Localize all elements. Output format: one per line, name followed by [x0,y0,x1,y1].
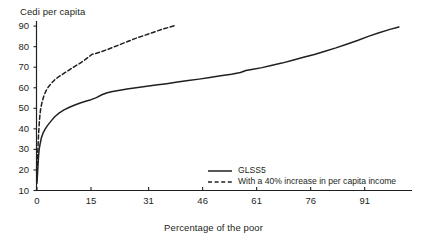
y-tick-label-40: 40 [7,123,29,134]
x-tick-label-46: 46 [188,195,218,206]
y-tick-label-60: 60 [7,82,29,93]
legend-label-2: With a 40% increase in per capita income [238,176,396,186]
x-tick-label-91: 91 [350,195,380,206]
y-tick-label-80: 80 [7,41,29,52]
x-tick-label-76: 76 [296,195,326,206]
series-line-2 [37,25,176,172]
chart-plot-area [0,0,427,242]
y-tick-label-20: 20 [7,164,29,175]
x-tick-label-15: 15 [76,195,106,206]
y-tick-label-50: 50 [7,102,29,113]
chart-figure: Cedi per capita 908070605040302010015314… [0,0,427,242]
y-tick-label-90: 90 [7,20,29,31]
axis-ticks [34,26,365,190]
series-line-1 [37,27,399,183]
y-tick-label-70: 70 [7,61,29,72]
data-series-group [37,25,399,183]
legend-line-samples [208,171,232,182]
y-tick-label-30: 30 [7,143,29,154]
x-tick-label-0: 0 [22,195,52,206]
x-tick-label-31: 31 [134,195,164,206]
legend-label-1: GLSS5 [238,165,266,175]
x-axis-title: Percentage of the poor [0,222,427,233]
x-tick-label-61: 61 [242,195,272,206]
